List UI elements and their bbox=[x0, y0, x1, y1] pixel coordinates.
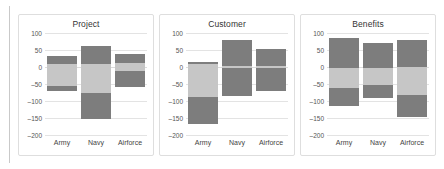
y-axis-tick-label: –100 bbox=[310, 97, 324, 104]
gridline bbox=[45, 135, 147, 136]
bar-segment-lower-dark bbox=[115, 71, 145, 87]
figure-left-rule bbox=[9, 6, 10, 163]
y-axis-tick-label: 50 bbox=[35, 46, 42, 53]
bar-army bbox=[47, 33, 77, 135]
y-axis-tick-label: 50 bbox=[317, 46, 324, 53]
y-axis-tick-label: 50 bbox=[176, 46, 183, 53]
bar-army bbox=[329, 33, 359, 135]
plot-area: 100500–50–100–150–200ArmyNavyAirforce bbox=[186, 33, 288, 135]
bar-segment-upper-dark bbox=[363, 43, 393, 67]
y-axis-tick-label: 0 bbox=[38, 63, 42, 70]
bar-segment-lower-dark bbox=[222, 68, 252, 96]
chart-panel-benefits: Benefits 100500–50–100–150–200ArmyNavyAi… bbox=[300, 14, 436, 156]
y-axis-tick-label: –100 bbox=[28, 97, 42, 104]
bar-segment-upper-dark bbox=[81, 46, 111, 64]
bar-segment-upper-dark bbox=[115, 54, 145, 63]
x-axis-tick-label: Navy bbox=[88, 139, 104, 147]
y-axis-tick-label: 100 bbox=[313, 30, 324, 37]
bar-army bbox=[188, 33, 218, 135]
bar-airforce bbox=[115, 33, 145, 135]
y-axis-tick-label: –50 bbox=[172, 81, 183, 88]
y-axis-tick-label: –150 bbox=[169, 115, 183, 122]
y-axis-tick-label: –100 bbox=[169, 97, 183, 104]
plot-area: 100500–50–100–150–200ArmyNavyAirforce bbox=[45, 33, 147, 135]
bar-navy bbox=[222, 33, 252, 135]
bar-segment-mid-light bbox=[363, 68, 393, 85]
bar-segment-lower-dark bbox=[188, 97, 218, 124]
bar-segment-mid-light bbox=[81, 64, 111, 93]
y-axis-tick-label: –200 bbox=[28, 132, 42, 139]
bar-airforce bbox=[397, 33, 427, 135]
bar-segment-upper-dark bbox=[329, 38, 359, 68]
bar-segment-lower-dark bbox=[363, 85, 393, 99]
bar-segment-lower-dark bbox=[256, 68, 286, 91]
x-axis-tick-label: Airforce bbox=[400, 139, 424, 147]
bar-airforce bbox=[256, 33, 286, 135]
y-axis-tick-label: –50 bbox=[31, 81, 42, 88]
x-axis-tick-label: Airforce bbox=[118, 139, 142, 147]
bar-segment-upper-dark bbox=[222, 40, 252, 66]
chart-panel-group: Project 100500–50–100–150–200ArmyNavyAir… bbox=[18, 14, 436, 156]
panel-title: Project bbox=[19, 19, 153, 29]
bar-navy bbox=[81, 33, 111, 135]
gridline bbox=[327, 135, 429, 136]
chart-panel-project: Project 100500–50–100–150–200ArmyNavyAir… bbox=[18, 14, 154, 156]
y-axis-tick-label: –150 bbox=[28, 115, 42, 122]
y-axis-tick-label: –200 bbox=[169, 132, 183, 139]
panel-title: Benefits bbox=[301, 19, 435, 29]
bar-segment-mid-light bbox=[115, 63, 145, 71]
bar-segment-mid-light bbox=[397, 67, 427, 95]
bar-segment-upper-dark bbox=[397, 40, 427, 67]
bar-segment-mid-light bbox=[188, 64, 218, 97]
x-axis-tick-label: Army bbox=[336, 139, 352, 147]
panel-title: Customer bbox=[160, 19, 294, 29]
bar-navy bbox=[363, 33, 393, 135]
y-axis-tick-label: 0 bbox=[179, 63, 183, 70]
bar-segment-upper-dark bbox=[256, 49, 286, 66]
bar-segment-mid-light bbox=[47, 64, 77, 86]
y-axis-tick-label: –50 bbox=[313, 81, 324, 88]
x-axis-tick-label: Navy bbox=[229, 139, 245, 147]
bar-segment-lower-dark bbox=[329, 88, 359, 106]
y-axis-tick-label: 0 bbox=[320, 63, 324, 70]
chart-panel-customer: Customer 100500–50–100–150–200ArmyNavyAi… bbox=[159, 14, 295, 156]
x-axis-tick-label: Army bbox=[195, 139, 211, 147]
bar-segment-upper-dark bbox=[47, 56, 77, 64]
y-axis-tick-label: –200 bbox=[310, 132, 324, 139]
x-axis-tick-label: Army bbox=[54, 139, 70, 147]
chart-figure: Project 100500–50–100–150–200ArmyNavyAir… bbox=[0, 0, 444, 169]
x-axis-tick-label: Navy bbox=[370, 139, 386, 147]
bar-segment-lower-dark bbox=[397, 95, 427, 117]
x-axis-tick-label: Airforce bbox=[259, 139, 283, 147]
gridline bbox=[186, 135, 288, 136]
bar-segment-lower-dark bbox=[47, 86, 77, 91]
y-axis-tick-label: 100 bbox=[31, 30, 42, 37]
bar-segment-mid-light bbox=[329, 68, 359, 88]
plot-area: 100500–50–100–150–200ArmyNavyAirforce bbox=[327, 33, 429, 135]
y-axis-tick-label: –150 bbox=[310, 115, 324, 122]
y-axis-tick-label: 100 bbox=[172, 30, 183, 37]
bar-segment-lower-dark bbox=[81, 93, 111, 120]
